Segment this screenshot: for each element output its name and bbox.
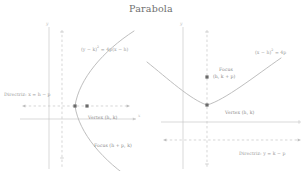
vertex-marker xyxy=(73,104,76,107)
vertex-marker xyxy=(205,103,208,106)
y-axis-label: y xyxy=(46,21,48,26)
directrix-label: Directriz: y = k − p xyxy=(239,151,285,157)
vertical-parabola-plot xyxy=(151,18,302,171)
vertex-label: Vertex (h, k) xyxy=(225,110,254,116)
directrix-arrowhead-left-icon xyxy=(163,138,166,141)
symmetry-arrowhead-right-icon xyxy=(127,104,130,107)
symmetry-arrowhead-left-icon xyxy=(22,104,25,107)
focus-marker xyxy=(205,75,208,78)
parabola-curve xyxy=(147,58,281,105)
page-title: Parabola xyxy=(0,3,302,14)
focus-label-line1: Focus xyxy=(219,67,233,73)
equation-base: (x − h) xyxy=(255,50,271,55)
figure-horizontal-parabola: y x (y − k)2 = 4p(x − h) Directriz: x = … xyxy=(0,18,151,171)
directrix-label: Directriz: x = h − p xyxy=(4,92,51,98)
parabola-equation: (x − h)2 = 4p xyxy=(255,48,286,55)
equation-base: (y − k) xyxy=(81,47,97,52)
x-axis-arrowhead-icon xyxy=(133,118,136,121)
focus-marker xyxy=(85,104,88,107)
figure-vertical-parabola: y (x − h)2 = 4p Focus (h, k + p) Vertex … xyxy=(151,18,302,171)
parabola-equation: (y − k)2 = 4p(x − h) xyxy=(81,45,128,52)
equation-rest: = 4p xyxy=(273,50,286,55)
focus-label-line2: (h, k + p) xyxy=(213,74,235,80)
directrix-arrowhead-right-icon xyxy=(298,138,301,141)
y-axis-label: y xyxy=(180,21,182,26)
focus-label: Focus (h + p, k) xyxy=(94,143,132,149)
equation-rest: = 4p(x − h) xyxy=(99,47,128,52)
vertex-label: Vertex (h, k) xyxy=(88,115,117,121)
x-axis-label: x xyxy=(138,113,140,118)
